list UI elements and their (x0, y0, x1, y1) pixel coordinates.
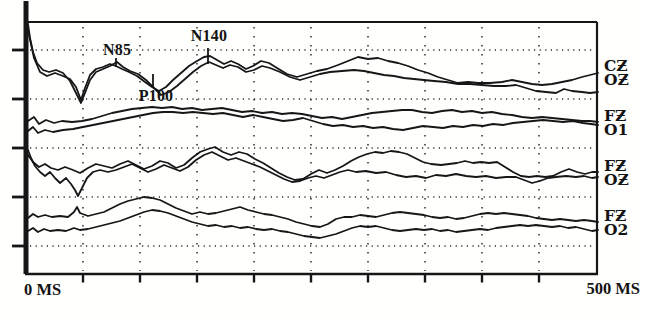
x-axis-label-start: 0 MS (24, 280, 61, 300)
channel-label-pair-fz-o2: FƵ O2 (604, 209, 628, 236)
channel-label-o1: O1 (604, 123, 628, 137)
channel-label-o2: O2 (604, 223, 628, 237)
channel-label-oz: OƵ (604, 173, 629, 187)
x-axis-label-end: 500 MS (558, 279, 640, 299)
channel-label-pair-cz-oz: CƵ OƵ (604, 59, 629, 86)
channel-label-pair-fz-o1: FƵ O1 (604, 109, 628, 136)
annotation-p100: P100 (139, 87, 174, 105)
trace-fz-pair2 (28, 147, 598, 180)
vep-eeg-figure: N85 N140 P100 CƵ OƵ FƵ O1 FƵ OƵ FƵ O2 0 … (0, 0, 645, 320)
annotation-n140: N140 (191, 27, 227, 45)
waveform-plot-canvas (0, 0, 645, 320)
channel-label-oz: OƵ (604, 73, 629, 87)
trace-oz-pair0 (28, 24, 598, 103)
annotation-n85: N85 (103, 41, 131, 59)
channel-label-pair-fz-oz: FƵ OƵ (604, 159, 629, 186)
